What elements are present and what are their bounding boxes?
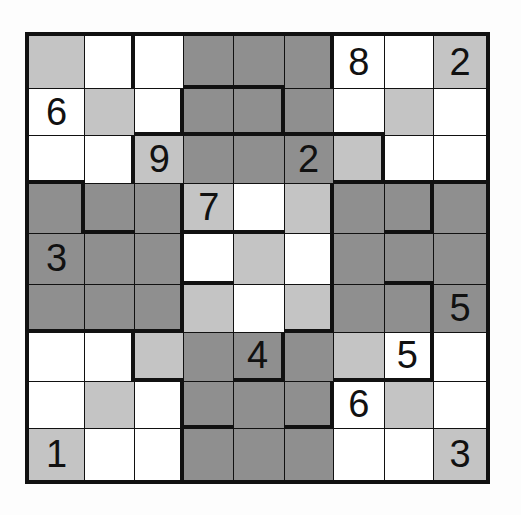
cell-r8c5[interactable]: [234, 382, 284, 429]
cell-r4c8[interactable]: [385, 184, 434, 234]
cell-r4c5[interactable]: [234, 184, 284, 234]
cell-r3c6: 2: [285, 136, 334, 184]
cell-r5c6[interactable]: [285, 234, 334, 284]
cell-r2c7[interactable]: [334, 89, 385, 136]
cell-r6c8[interactable]: [385, 285, 434, 333]
cell-r9c2[interactable]: [85, 429, 135, 480]
cell-r9c1: 1: [29, 429, 85, 480]
cell-r6c3[interactable]: [135, 285, 184, 333]
cell-r8c3[interactable]: [135, 382, 184, 429]
cell-r8c9[interactable]: [434, 382, 486, 429]
cell-r8c2[interactable]: [85, 382, 135, 429]
cell-r9c5[interactable]: [234, 429, 284, 480]
cell-r4c6[interactable]: [285, 184, 334, 234]
cell-r8c6[interactable]: [285, 382, 334, 429]
cell-r5c5[interactable]: [234, 234, 284, 284]
cell-r3c1[interactable]: [29, 136, 85, 184]
cell-r9c6[interactable]: [285, 429, 334, 480]
cell-r8c4[interactable]: [184, 382, 234, 429]
cell-r2c5[interactable]: [234, 89, 284, 136]
cell-r8c8[interactable]: [385, 382, 434, 429]
cell-r5c8[interactable]: [385, 234, 434, 284]
cell-r7c2[interactable]: [85, 333, 135, 382]
cell-r5c1: 3: [29, 234, 85, 284]
cell-r6c5[interactable]: [234, 285, 284, 333]
cell-r1c1[interactable]: [29, 36, 85, 89]
cell-r6c1[interactable]: [29, 285, 85, 333]
cell-r9c9: 3: [434, 429, 486, 480]
cell-r2c9[interactable]: [434, 89, 486, 136]
cell-r2c4[interactable]: [184, 89, 234, 136]
cell-r1c7: 8: [334, 36, 385, 89]
cell-r7c5: 4: [234, 333, 284, 382]
cell-r9c7[interactable]: [334, 429, 385, 480]
cell-r2c8[interactable]: [385, 89, 434, 136]
cell-r4c7[interactable]: [334, 184, 385, 234]
cell-r4c3[interactable]: [135, 184, 184, 234]
cell-r5c4[interactable]: [184, 234, 234, 284]
cell-r7c1[interactable]: [29, 333, 85, 382]
cell-r3c4[interactable]: [184, 136, 234, 184]
cell-r9c3[interactable]: [135, 429, 184, 480]
cell-r6c4[interactable]: [184, 285, 234, 333]
cell-r5c2[interactable]: [85, 234, 135, 284]
cell-r3c8[interactable]: [385, 136, 434, 184]
cell-r7c8: 5: [385, 333, 434, 382]
cell-r7c3[interactable]: [135, 333, 184, 382]
cell-r8c7: 6: [334, 382, 385, 429]
cell-r7c9[interactable]: [434, 333, 486, 382]
cell-r1c8[interactable]: [385, 36, 434, 89]
cell-r1c9: 2: [434, 36, 486, 89]
cell-r4c2[interactable]: [85, 184, 135, 234]
cell-r7c7[interactable]: [334, 333, 385, 382]
cell-r5c3[interactable]: [135, 234, 184, 284]
cell-r3c5[interactable]: [234, 136, 284, 184]
cell-r7c6[interactable]: [285, 333, 334, 382]
cell-r3c9[interactable]: [434, 136, 486, 184]
cell-r5c7[interactable]: [334, 234, 385, 284]
cell-r4c9[interactable]: [434, 184, 486, 234]
cell-r1c5[interactable]: [234, 36, 284, 89]
cell-r2c2[interactable]: [85, 89, 135, 136]
cell-r2c6[interactable]: [285, 89, 334, 136]
cell-r8c1[interactable]: [29, 382, 85, 429]
cell-r3c3: 9: [135, 136, 184, 184]
cell-r1c4[interactable]: [184, 36, 234, 89]
cell-r2c1: 6: [29, 89, 85, 136]
cell-r3c2[interactable]: [85, 136, 135, 184]
cell-r4c1[interactable]: [29, 184, 85, 234]
cell-r2c3[interactable]: [135, 89, 184, 136]
cell-r1c3[interactable]: [135, 36, 184, 89]
cell-r5c9[interactable]: [434, 234, 486, 284]
cell-r9c4[interactable]: [184, 429, 234, 480]
cell-r4c4: 7: [184, 184, 234, 234]
cell-r7c4[interactable]: [184, 333, 234, 382]
cell-r9c8[interactable]: [385, 429, 434, 480]
cell-r1c2[interactable]: [85, 36, 135, 89]
cell-r6c9: 5: [434, 285, 486, 333]
cell-r6c6[interactable]: [285, 285, 334, 333]
cell-r1c6[interactable]: [285, 36, 334, 89]
cell-r6c2[interactable]: [85, 285, 135, 333]
cell-r6c7[interactable]: [334, 285, 385, 333]
cell-r3c7[interactable]: [334, 136, 385, 184]
sudoku-board: 8269273545613: [25, 32, 490, 484]
